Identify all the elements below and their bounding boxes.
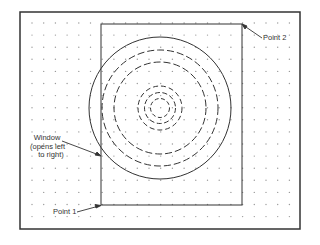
point2-label: Point 2 [263, 34, 286, 43]
window-arrowhead [95, 152, 101, 156]
outer-solid-circle [89, 37, 231, 179]
window-label: Window (opens left to right) [30, 134, 64, 160]
outer-frame [20, 12, 300, 229]
dashed-circle-5 [151, 99, 170, 118]
dashed-circle-2 [114, 62, 206, 154]
point1-label: Point 1 [53, 208, 76, 217]
grid-dots [31, 22, 290, 217]
dashed-circle-1 [102, 50, 218, 166]
concentric-circles [89, 37, 231, 179]
window-label-line3: to right) [30, 151, 64, 160]
window-leader [62, 141, 99, 155]
point2-arrowhead [242, 24, 247, 29]
point1-arrowhead [95, 205, 101, 209]
